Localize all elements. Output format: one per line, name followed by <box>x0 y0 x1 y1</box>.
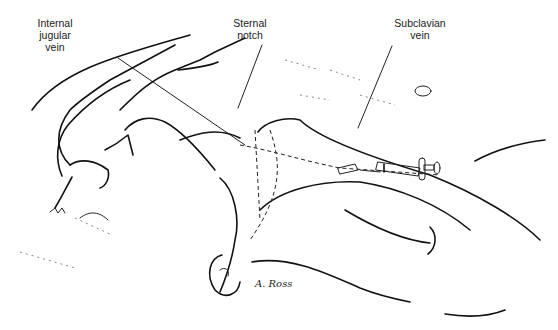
stipple <box>300 95 330 100</box>
syringe-plunger-end <box>434 162 440 174</box>
breast-contour <box>345 210 430 243</box>
eye-icon <box>80 213 108 220</box>
mouth-chin <box>70 161 109 188</box>
nipple-contour <box>428 227 435 254</box>
vessel-path <box>250 130 277 240</box>
clavicle-contour-lower <box>260 182 470 230</box>
face-cheek <box>125 118 215 170</box>
subclavian-vein-path <box>240 145 440 175</box>
shoulder-contour <box>59 45 175 165</box>
jugular-vein-path <box>255 130 260 220</box>
neck-contour <box>180 132 240 140</box>
clavicle-contour-upper <box>258 119 540 240</box>
leader-line-internal-jugular <box>118 58 245 145</box>
artist-signature: A. Ross <box>255 278 292 289</box>
stipple <box>285 60 320 70</box>
leader-line-sternal-notch <box>238 45 262 108</box>
catheter-hub <box>338 164 358 174</box>
stipple <box>330 70 360 80</box>
ear-icon <box>210 255 240 295</box>
stipple-loop <box>415 86 431 96</box>
arm-contour-lower <box>120 38 245 110</box>
brow-stipple <box>75 218 112 235</box>
eyelash-icon <box>50 208 65 213</box>
arm-contour-right <box>475 140 545 161</box>
hairline <box>20 252 75 268</box>
jaw <box>55 177 72 208</box>
nose <box>105 135 133 155</box>
leader-line-subclavian <box>358 46 392 128</box>
arm-contour-upper <box>32 35 190 110</box>
lower-body-contour <box>445 310 505 316</box>
syringe-barrel <box>376 162 420 176</box>
stipple <box>360 95 395 105</box>
